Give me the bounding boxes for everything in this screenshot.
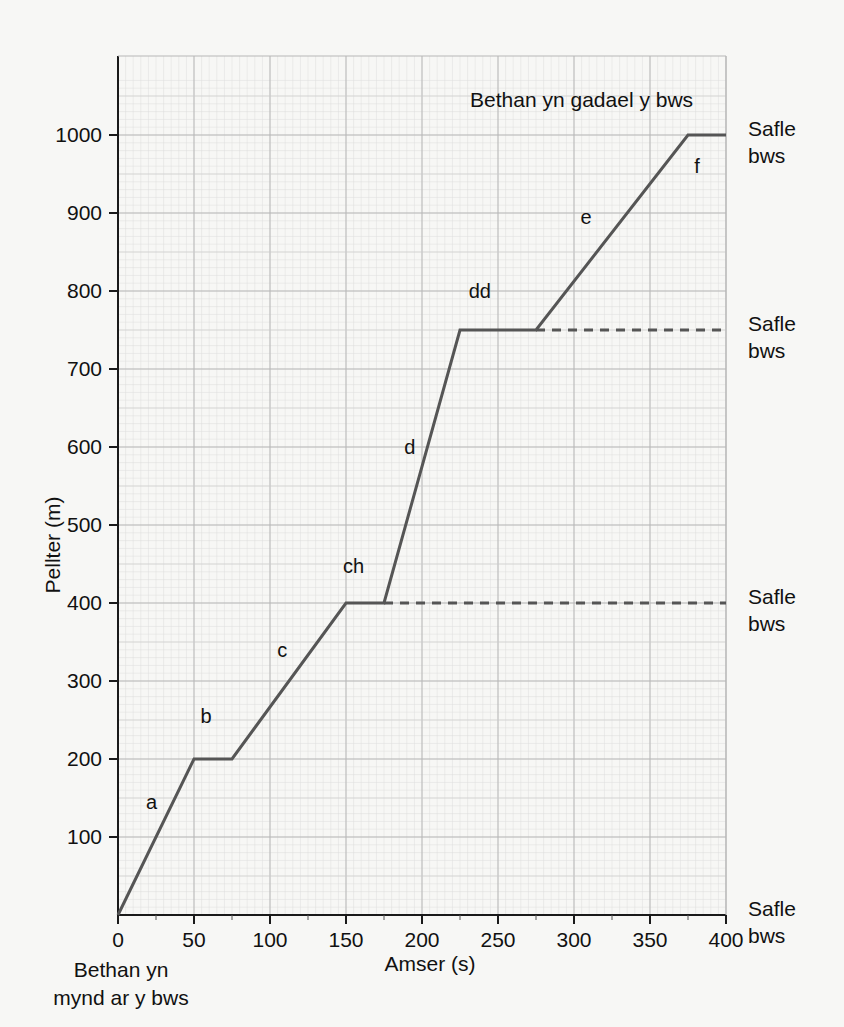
y-tick-label-400: 400 (67, 591, 102, 614)
y-tick-label-700: 700 (67, 357, 102, 380)
x-tick-label-250: 250 (480, 928, 515, 951)
segment-label-a: a (146, 791, 158, 813)
y-tick-label-600: 600 (67, 435, 102, 458)
x-tick-label-100: 100 (252, 928, 287, 951)
y-axis-title: Pellter (m) (41, 497, 64, 594)
annotation-board-bus-line1: Bethan yn (74, 958, 169, 981)
y-tick-label-800: 800 (67, 279, 102, 302)
x-tick-label-350: 350 (632, 928, 667, 951)
y-tick-label-100: 100 (67, 825, 102, 848)
y-tick-label-500: 500 (67, 513, 102, 536)
stop-400-line1: Safle (748, 585, 796, 608)
x-tick-label-200: 200 (404, 928, 439, 951)
stop-1000-line1: Safle (748, 117, 796, 140)
segment-label-dd: dd (469, 280, 491, 302)
stop-0-line2: bws (748, 924, 785, 947)
x-tick-label-0: 0 (112, 928, 124, 951)
annotation-board-bus-line2: mynd ar y bws (53, 986, 188, 1009)
stop-1000-line2: bws (748, 144, 785, 167)
stop-750-line2: bws (748, 339, 785, 362)
y-tick-label-1000: 1000 (55, 123, 102, 146)
stop-750-line1: Safle (748, 312, 796, 335)
x-tick-label-50: 50 (182, 928, 205, 951)
x-tick-label-300: 300 (556, 928, 591, 951)
y-tick-label-900: 900 (67, 201, 102, 224)
x-axis-title: Amser (s) (385, 952, 476, 975)
chart-canvas: 0501001502002503003504001002003004005006… (0, 0, 844, 1027)
segment-label-ch: ch (343, 555, 364, 577)
stop-400-line2: bws (748, 612, 785, 635)
segment-label-d: d (404, 436, 415, 458)
y-tick-label-200: 200 (67, 747, 102, 770)
distance-time-chart: 0501001502002503003504001002003004005006… (0, 0, 844, 1027)
annotation-leave-bus: Bethan yn gadael y bws (470, 88, 693, 111)
segment-label-f: f (694, 155, 700, 177)
segment-label-c: c (277, 639, 287, 661)
segment-label-e: e (581, 206, 592, 228)
x-tick-label-400: 400 (708, 928, 743, 951)
stop-0-line1: Safle (748, 897, 796, 920)
x-tick-label-150: 150 (328, 928, 363, 951)
segment-label-b: b (201, 705, 212, 727)
y-tick-label-300: 300 (67, 669, 102, 692)
